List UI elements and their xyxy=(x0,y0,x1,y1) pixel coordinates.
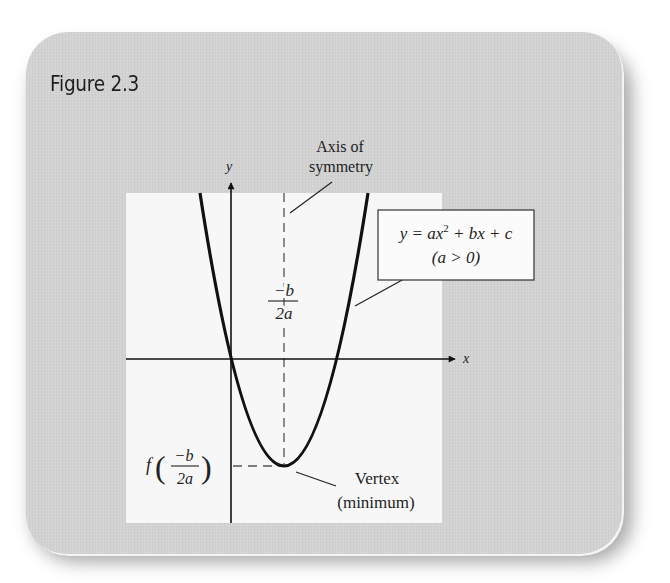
parabola-diagram: y x Axis of symmetry y = ax2 + bx + c (a… xyxy=(0,0,670,583)
vertex-x-numerator: −b xyxy=(274,281,294,300)
equation-line1: y = ax2 + bx + c xyxy=(398,222,513,243)
vertex-label-line1: Vertex xyxy=(355,469,400,488)
vertex-y-numerator: −b xyxy=(175,447,194,464)
vertex-y-denominator: 2a xyxy=(177,470,193,487)
vertex-y-open-paren: ( xyxy=(155,449,166,485)
axis-of-symmetry-label-line1: Axis of xyxy=(316,138,364,155)
equation-box xyxy=(378,210,534,280)
y-axis-label: y xyxy=(224,159,233,174)
x-axis-label: x xyxy=(462,351,470,366)
axis-of-symmetry-label-line2: symmetry xyxy=(309,158,373,176)
vertex-label-line2: (minimum) xyxy=(337,493,414,512)
vertex-x-denominator: 2a xyxy=(276,304,293,323)
vertex-y-close-paren: ) xyxy=(201,449,212,485)
equation-line2: (a > 0) xyxy=(432,248,481,267)
equation-ax: = ax xyxy=(407,224,443,243)
equation-y: y xyxy=(398,224,408,243)
equation-tail: + bx + c xyxy=(449,224,513,243)
